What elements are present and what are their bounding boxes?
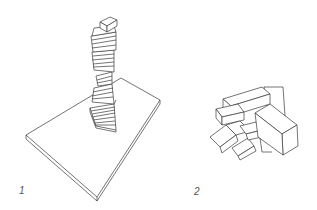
drawing-canvas (0, 0, 317, 210)
spiral-tower (90, 17, 117, 132)
block-pile (210, 87, 298, 160)
figure-label-2: 2 (194, 186, 200, 197)
figure-label-1: 1 (19, 185, 25, 196)
